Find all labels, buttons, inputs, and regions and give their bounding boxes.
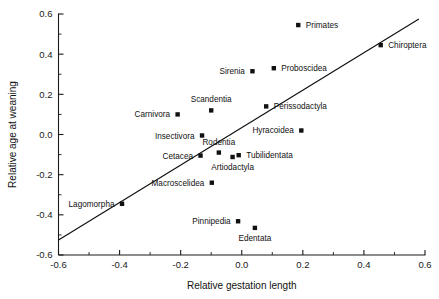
point-label-cetacea: Cetacea	[163, 152, 194, 161]
data-point-marker	[299, 128, 303, 132]
axes-group	[59, 14, 426, 256]
data-points	[120, 23, 383, 230]
data-point-marker	[272, 66, 276, 70]
data-point-marker	[236, 153, 240, 157]
point-label-sirenia: Sirenia	[219, 67, 245, 76]
point-labels: PrimatesChiropteraSireniaProboscideaScan…	[69, 21, 427, 243]
y-tick-label: -0.4	[36, 209, 52, 220]
x-tick-label: 0.2	[296, 259, 309, 270]
point-label-edentata: Edentata	[238, 234, 271, 243]
data-point-marker	[230, 155, 234, 159]
data-point-marker	[198, 153, 202, 157]
plot-canvas: -0.6-0.4-0.20.00.20.40.60.60.40.20.0-0.2…	[0, 0, 439, 299]
point-label-hyracoidea: Hyracoidea	[252, 126, 294, 135]
scatter-plot-figure: -0.6-0.4-0.20.00.20.40.60.60.40.20.0-0.2…	[0, 0, 439, 299]
point-label-insectivora: Insectivora	[155, 132, 195, 141]
data-point-marker	[175, 112, 179, 116]
y-tick-label: -0.2	[36, 169, 52, 180]
data-point-marker	[379, 43, 383, 47]
data-point-marker	[209, 108, 213, 112]
x-axis-title: Relative gestation length	[187, 280, 297, 291]
x-tick-label: 0.0	[235, 259, 248, 270]
point-label-pinnipedia: Pinnipedia	[192, 217, 231, 226]
ticks-group	[59, 14, 426, 255]
data-point-marker	[253, 226, 257, 230]
y-tick-label: 0.6	[39, 8, 52, 19]
point-label-carnivora: Carnivora	[135, 110, 171, 119]
data-point-marker	[236, 219, 240, 223]
data-point-marker	[217, 150, 221, 154]
point-label-lagomorpha: Lagomorpha	[69, 200, 115, 209]
point-label-chiroptera: Chiroptera	[388, 41, 427, 50]
data-point-marker	[120, 202, 124, 206]
x-tick-label: 0.6	[418, 259, 431, 270]
x-tick-label: -0.4	[111, 259, 127, 270]
point-label-artiodactyla: Artiodactyla	[211, 163, 254, 172]
point-label-macroscelidea: Macroscelidea	[152, 179, 205, 188]
x-tick-label: -0.6	[50, 259, 66, 270]
y-tick-label: 0.4	[39, 49, 52, 60]
y-tick-label: -0.6	[36, 249, 52, 260]
y-tick-label: 0.0	[39, 129, 52, 140]
point-label-proboscidea: Proboscidea	[281, 64, 327, 73]
data-point-marker	[210, 181, 214, 185]
point-label-perissodactyla: Perissodactyla	[274, 102, 328, 111]
x-tick-label: -0.2	[172, 259, 188, 270]
x-tick-label: 0.4	[357, 259, 370, 270]
y-tick-label: 0.2	[39, 89, 52, 100]
data-point-marker	[296, 23, 300, 27]
data-point-marker	[264, 104, 268, 108]
point-label-tubilidentata: Tubilidentata	[246, 151, 293, 160]
y-axis-title: Relative age at weaning	[7, 81, 18, 188]
point-label-rodentia: Rodentia	[202, 138, 235, 147]
point-label-scandentia: Scandentia	[191, 95, 232, 104]
point-label-primates: Primates	[306, 21, 338, 30]
data-point-marker	[250, 69, 254, 73]
